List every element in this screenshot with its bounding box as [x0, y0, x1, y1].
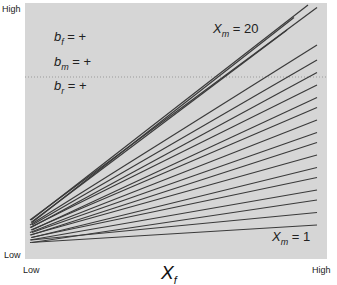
legend-row-bm: bm = + [54, 52, 91, 77]
x-axis-high-label: High [312, 265, 331, 275]
legend-row-bf: bf = + [54, 27, 91, 52]
y-axis-low-label: Low [4, 250, 21, 260]
x-axis-title: Xf [161, 262, 177, 285]
series-line [31, 108, 317, 231]
x-axis-title-subscript: f [174, 274, 177, 285]
annotation-xm-1: Xm = 1 [272, 229, 310, 247]
legend-row-br: br = + [54, 76, 91, 101]
annotation-symbol: X [272, 229, 281, 244]
annotation-symbol: X [213, 21, 222, 36]
series-line [32, 168, 317, 238]
series-line [30, 120, 317, 233]
legend-value: = + [64, 29, 86, 44]
legend-value: = + [69, 54, 91, 69]
x-axis-title-main: X [161, 262, 174, 283]
legend-value: = + [64, 78, 86, 93]
annotation-value: = 20 [229, 21, 258, 36]
annotation-xm-20: Xm = 20 [213, 21, 258, 39]
legend: bf = + bm = + br = + [54, 27, 91, 101]
series-line [32, 98, 317, 231]
series-line [30, 155, 317, 235]
x-axis-low-label: Low [23, 265, 40, 275]
y-axis-high-label: High [2, 4, 21, 14]
annotation-value: = 1 [288, 229, 310, 244]
series-line [32, 133, 317, 233]
legend-subscript: m [61, 61, 69, 71]
